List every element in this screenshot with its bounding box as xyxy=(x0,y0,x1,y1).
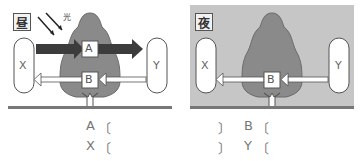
bracket-open: 〔 xyxy=(98,138,111,157)
box-a-label: A xyxy=(85,42,93,55)
white-arrow-to-x xyxy=(34,73,41,86)
bracket-close: 〕 xyxy=(218,138,231,157)
day-panel: 昼 光 A B X Y xyxy=(8,5,172,109)
capsule-y-label: Y xyxy=(335,59,342,72)
white-arrow-to-x xyxy=(216,73,223,86)
ground-line xyxy=(8,106,172,109)
box-b-label: B xyxy=(85,73,93,86)
capsule-x-label: X xyxy=(201,59,209,72)
dark-arrow-out xyxy=(98,44,134,54)
answer-label-a: A xyxy=(86,118,95,133)
night-tag: 夜 xyxy=(195,13,213,31)
capsule-x-label: X xyxy=(19,59,27,72)
answer-row: A 〔 〕 B 〔 xyxy=(0,118,360,136)
dark-arrow-in xyxy=(36,44,76,54)
day-diagram xyxy=(8,5,172,109)
capsule-y-label: Y xyxy=(153,59,160,72)
answer-label-b: B xyxy=(244,118,253,133)
ground-line xyxy=(190,106,354,109)
answer-label-y: Y xyxy=(244,138,252,153)
answer-row: X 〔 〕 Y 〔 xyxy=(0,138,360,156)
night-diagram xyxy=(190,5,354,109)
bracket-open: 〔 xyxy=(98,118,111,137)
bracket-open: 〔 xyxy=(256,118,269,137)
box-b-label: B xyxy=(267,73,275,86)
bracket-open: 〔 xyxy=(256,138,269,157)
bracket-close: 〕 xyxy=(218,118,231,137)
light-label: 光 xyxy=(63,11,71,22)
answer-label-x: X xyxy=(86,138,95,153)
night-panel: 夜 B X Y xyxy=(190,5,354,109)
day-tag: 昼 xyxy=(13,13,31,31)
